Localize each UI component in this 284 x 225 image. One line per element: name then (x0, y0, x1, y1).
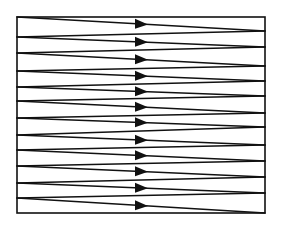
return-sweep-line (17, 161, 265, 166)
arrow-right-icon (135, 166, 148, 176)
arrow-right-icon (135, 54, 148, 64)
arrow-right-icon (135, 86, 148, 96)
return-sweep-line (17, 113, 265, 118)
arrow-right-icon (135, 183, 148, 193)
arrow-right-icon (135, 102, 148, 112)
return-sweep-line (17, 81, 265, 87)
arrow-right-icon (135, 37, 148, 47)
return-sweep-line (17, 47, 265, 53)
return-sweep-line (17, 31, 265, 37)
return-sweep-line (17, 66, 265, 71)
arrow-right-icon (135, 19, 148, 29)
raster-scan-diagram (0, 0, 284, 225)
arrow-right-icon (135, 135, 148, 145)
return-sweep-line (17, 177, 265, 183)
arrow-right-icon (135, 117, 148, 127)
arrowheads (135, 19, 148, 210)
arrow-right-icon (135, 150, 148, 160)
arrow-right-icon (135, 71, 148, 81)
return-sweep-line (17, 127, 265, 135)
return-sweep-line (17, 96, 265, 101)
return-sweep-line (17, 145, 265, 150)
arrow-right-icon (135, 200, 148, 210)
return-sweep-line (17, 193, 265, 198)
